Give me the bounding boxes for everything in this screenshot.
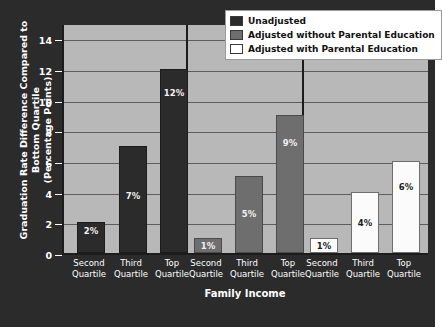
bar-adjusted-without-third-quartile[interactable]: 5% [235, 176, 263, 253]
bar-value-label: 1% [315, 241, 333, 252]
bar-adjusted-without-top-quartile[interactable]: 9% [276, 115, 304, 253]
bar-unadjusted-third-quartile[interactable]: 7% [119, 146, 147, 253]
legend-label-unadjusted: Unadjusted [248, 16, 306, 26]
bar-value-label: 7% [124, 191, 142, 202]
bar-value-label: 12% [162, 88, 186, 99]
bar-adjusted-with-top-quartile[interactable]: 6% [392, 161, 420, 253]
legend-swatch-adjusted-without [230, 30, 243, 40]
bar-value-label: 5% [240, 209, 258, 220]
legend-label-adjusted-with: Adjusted with Parental Education [248, 44, 418, 54]
y-tick-label-0: 0 [45, 250, 52, 261]
legend: Unadjusted Adjusted without Parental Edu… [225, 10, 442, 60]
y-tick-label-12: 12 [39, 66, 52, 77]
legend-swatch-adjusted-with [230, 44, 243, 54]
bar-value-label: 6% [397, 182, 415, 193]
y-tick-label-6: 6 [45, 158, 52, 169]
gridline-8 [64, 132, 428, 133]
bar-unadjusted-second-quartile[interactable]: 2% [77, 222, 105, 253]
legend-swatch-unadjusted [230, 16, 243, 26]
x-label-line1: Top [378, 258, 430, 269]
bar-adjusted-with-third-quartile[interactable]: 4% [351, 192, 379, 253]
x-axis-title: Family Income [62, 288, 428, 299]
legend-label-adjusted-without: Adjusted without Parental Education [248, 30, 435, 40]
bar-adjusted-without-second-quartile[interactable]: 1% [194, 238, 222, 253]
x-axis-labels: Second Quartile Third Quartile Top Quart… [62, 258, 428, 286]
y-tick-label-2: 2 [45, 219, 52, 230]
legend-item-unadjusted[interactable]: Unadjusted [230, 14, 435, 28]
bar-value-label: 1% [199, 241, 217, 252]
y-tick-label-10: 10 [39, 97, 52, 108]
legend-item-adjusted-without-parental-education[interactable]: Adjusted without Parental Education [230, 28, 435, 42]
y-axis-ticks: 0 2 4 6 8 10 12 14 [0, 25, 62, 255]
y-tick-label-4: 4 [45, 189, 52, 200]
gridline-12 [64, 71, 428, 72]
bar-value-label: 9% [281, 138, 299, 149]
bar-value-label: 4% [356, 218, 374, 229]
y-tick-label-14: 14 [39, 35, 52, 46]
gridline-10 [64, 102, 428, 103]
bar-unadjusted-top-quartile[interactable]: 12% [160, 69, 188, 253]
bar-value-label: 2% [82, 226, 100, 237]
x-label-g3-top-quartile: Top Quartile [378, 258, 430, 280]
x-label-line2: Quartile [378, 269, 430, 280]
legend-item-adjusted-with-parental-education[interactable]: Adjusted with Parental Education [230, 42, 435, 56]
bar-adjusted-with-second-quartile[interactable]: 1% [310, 238, 338, 253]
y-tick-label-8: 8 [45, 127, 52, 138]
